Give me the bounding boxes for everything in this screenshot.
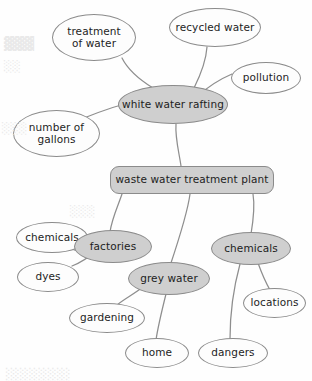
node-layer: treatment of waterrecycled waterpollutio… bbox=[0, 0, 312, 381]
node-label-locations: locations bbox=[248, 297, 300, 309]
node-recycled-water[interactable]: recycled water bbox=[169, 8, 261, 47]
node-label-grey-water: grey water bbox=[138, 273, 200, 285]
node-label-chemicals-left: chemicals bbox=[23, 232, 81, 244]
node-white-water-rafting[interactable]: white water rafting bbox=[118, 85, 228, 124]
node-dangers[interactable]: dangers bbox=[198, 338, 268, 368]
node-label-home: home bbox=[140, 347, 174, 359]
node-locations[interactable]: locations bbox=[243, 288, 306, 318]
node-number-of-gallons[interactable]: number of gallons bbox=[13, 110, 100, 157]
node-label-chemicals-right: chemicals bbox=[222, 243, 280, 255]
node-label-factories: factories bbox=[88, 241, 139, 253]
node-pollution[interactable]: pollution bbox=[231, 62, 301, 94]
node-label-pollution: pollution bbox=[241, 72, 292, 84]
node-dyes[interactable]: dyes bbox=[17, 262, 79, 292]
node-label-recycled-water: recycled water bbox=[173, 22, 256, 34]
node-chemicals-right[interactable]: chemicals bbox=[211, 232, 291, 265]
node-gardening[interactable]: gardening bbox=[69, 303, 145, 333]
node-label-dyes: dyes bbox=[33, 271, 62, 283]
node-label-dangers: dangers bbox=[209, 347, 256, 359]
node-label-treatment-of-water: treatment of water bbox=[65, 26, 123, 50]
node-label-gardening: gardening bbox=[78, 312, 136, 324]
node-grey-water[interactable]: grey water bbox=[128, 262, 210, 295]
node-home[interactable]: home bbox=[125, 338, 189, 368]
node-waste-water-treatment-plant[interactable]: waste water treatment plant bbox=[110, 166, 274, 194]
node-treatment-of-water[interactable]: treatment of water bbox=[52, 14, 136, 61]
node-label-white-water-rafting: white water rafting bbox=[120, 99, 226, 111]
concept-map-canvas: treatment of waterrecycled waterpollutio… bbox=[0, 0, 312, 381]
node-label-number-of-gallons: number of gallons bbox=[27, 122, 86, 146]
node-factories[interactable]: factories bbox=[74, 230, 152, 263]
node-label-waste-water-treatment-plant: waste water treatment plant bbox=[113, 174, 270, 186]
